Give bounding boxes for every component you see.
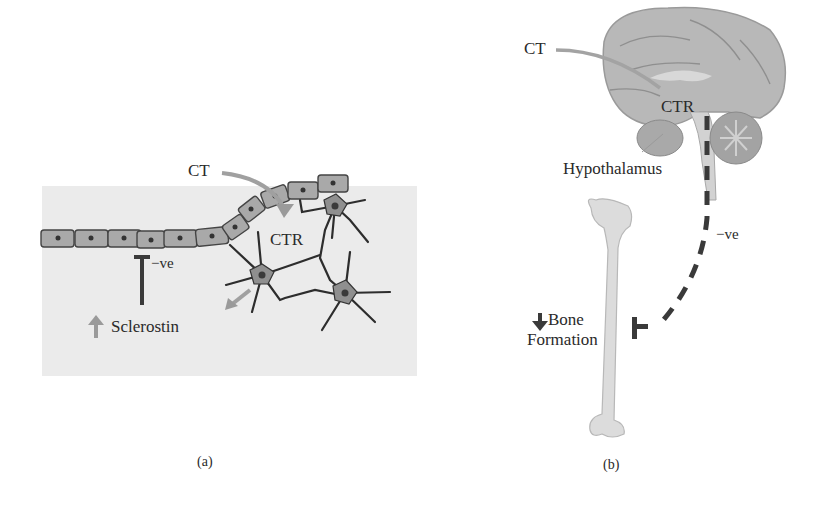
panel-a-negative-label: −ve [151,256,174,271]
panel-b-negative-label: −ve [716,227,739,242]
panel-a-graphic [0,0,818,512]
bone-formation-label-line1: Bone [548,311,584,328]
bone-formation-label-line2: Formation [527,331,598,348]
panel-a-ctr-label: CTR [270,231,303,248]
bone-tissue-background [42,186,417,376]
panel-b-ct-label: CT [524,40,546,57]
sclerostin-label: Sclerostin [111,318,179,335]
panel-a-ct-label: CT [188,162,210,179]
hypothalamus-label: Hypothalamus [563,160,662,177]
femur-bone-illustration [588,199,631,437]
inhibition-bar-icon [632,317,648,339]
panel-a-caption: (a) [197,455,213,469]
panel-b-caption: (b) [603,458,619,472]
down-arrow-icon [532,313,548,331]
panel-b-ctr-label: CTR [661,98,694,115]
